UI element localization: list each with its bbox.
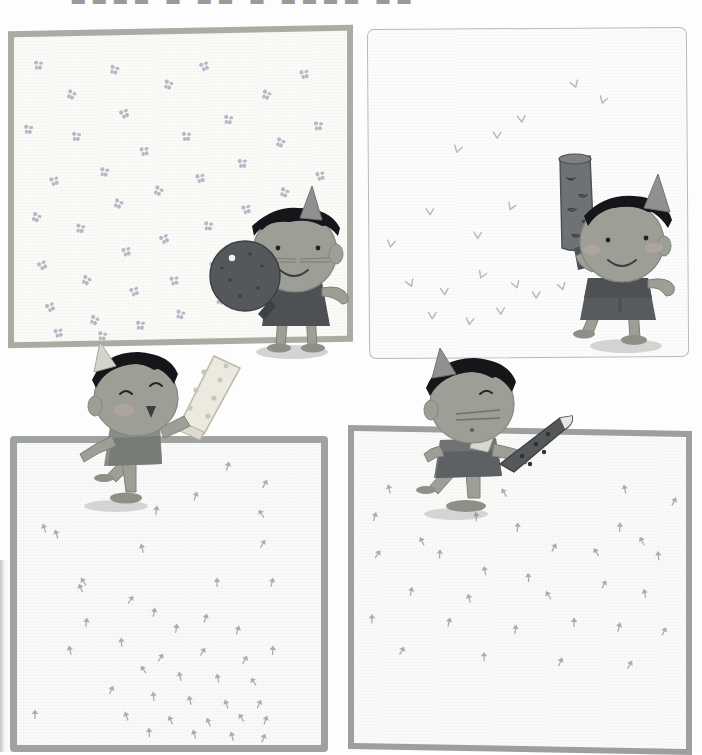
eye-left	[276, 246, 281, 251]
motif-bird	[439, 281, 448, 290]
foot-back	[416, 486, 436, 494]
motif-sprout	[172, 618, 181, 629]
motif-sprout	[639, 584, 649, 595]
motif-sprout	[480, 647, 488, 657]
motif-flower	[204, 221, 214, 230]
motif-bird	[465, 311, 475, 320]
motif-flower	[224, 115, 234, 125]
motif-flower	[99, 167, 109, 177]
eye-right	[644, 236, 649, 241]
motif-flower	[24, 125, 34, 134]
motif-sprout	[117, 633, 126, 644]
foot-front	[446, 500, 486, 512]
motif-sprout	[619, 479, 629, 490]
motif-sprout	[31, 705, 39, 715]
eye-right	[316, 246, 321, 251]
ear	[424, 400, 438, 420]
motif-bird	[516, 109, 526, 118]
motif-sprout	[654, 546, 663, 557]
arm-right	[648, 279, 674, 296]
motif-flower	[238, 158, 248, 168]
motif-flower	[34, 61, 43, 70]
motif-bird	[425, 201, 434, 210]
motif-flower	[109, 64, 120, 75]
nose-dot	[470, 428, 474, 432]
ear	[329, 244, 343, 264]
motif-bird	[473, 225, 482, 233]
character-child-with-raised-cylinder	[548, 150, 693, 355]
motif-bird	[428, 306, 437, 314]
motif-sprout	[145, 723, 154, 733]
motif-bird	[493, 125, 502, 133]
foot-left	[573, 330, 595, 339]
motif-bird	[387, 233, 397, 242]
motif-flower	[72, 132, 82, 141]
held-dark-blade	[500, 416, 572, 472]
cheek-right	[645, 243, 663, 253]
character-child-with-light-bar	[64, 358, 244, 518]
motif-flower	[314, 121, 323, 130]
cone-hat	[644, 174, 670, 212]
ear	[88, 396, 102, 416]
motif-sprout	[212, 668, 222, 679]
motif-sprout	[570, 613, 578, 623]
cropped-top-text: ■■■■ ■ ■■ ■ ■■■■ ■■	[0, 0, 702, 7]
motif-sprout	[436, 544, 445, 555]
motif-sprout	[511, 619, 520, 630]
motif-sprout	[148, 687, 157, 698]
cropped-top-text-label: ■■■■ ■ ■■ ■ ■■■■ ■■	[70, 0, 417, 6]
motif-sprout	[479, 561, 489, 572]
character-child-with-dark-blade	[404, 372, 584, 522]
foot-left	[267, 344, 291, 353]
foot-front	[110, 493, 142, 504]
foot-back	[94, 474, 114, 482]
motif-sprout	[269, 641, 278, 651]
motif-sprout	[82, 612, 91, 623]
motif-sprout	[368, 609, 376, 619]
motif-flower	[175, 309, 186, 320]
motif-sprout	[616, 517, 625, 528]
foot-right	[621, 335, 647, 345]
motif-flower	[136, 321, 145, 330]
foot-right	[301, 344, 325, 353]
eye-left	[606, 238, 611, 243]
motif-bird	[532, 285, 541, 293]
scan-edge-artifact	[0, 560, 9, 752]
motif-sprout	[524, 568, 533, 579]
cheek	[113, 404, 135, 416]
motif-flower	[98, 331, 108, 341]
motif-sprout	[213, 573, 221, 583]
motif-bird	[496, 301, 505, 310]
motif-flower	[75, 223, 85, 233]
arm-right	[322, 287, 348, 304]
cheek-left	[583, 245, 601, 255]
character-child-with-round-object	[222, 196, 357, 361]
motif-flower	[182, 132, 191, 141]
